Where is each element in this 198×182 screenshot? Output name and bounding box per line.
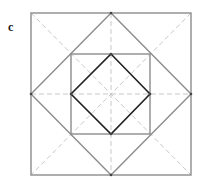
vertex-dot <box>149 93 152 96</box>
vertex-dot <box>110 133 113 136</box>
vertex-dot <box>190 93 193 96</box>
vertex-dot <box>70 93 73 96</box>
nested-squares-diagram <box>0 0 198 182</box>
vertex-dot <box>110 53 113 56</box>
vertex-dot <box>30 93 33 96</box>
vertex-dot <box>110 174 113 177</box>
vertex-dot <box>110 12 113 15</box>
guide-lines <box>31 13 191 175</box>
